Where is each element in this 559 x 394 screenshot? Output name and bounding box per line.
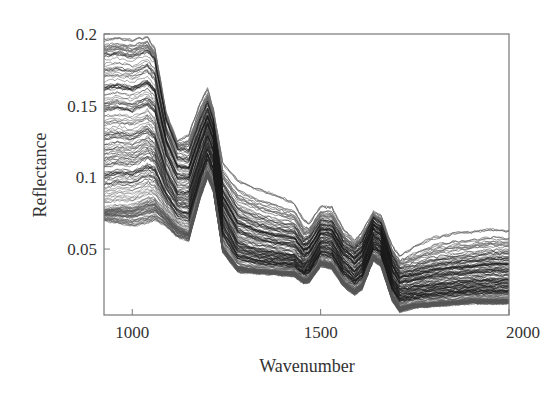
- x-axis-label: Wavenumber: [259, 356, 355, 376]
- y-tick-label: 0.1: [76, 168, 97, 187]
- y-tick-label: 0.2: [76, 25, 97, 44]
- y-tick-label: 0.05: [67, 240, 97, 259]
- x-tick-label: 1000: [115, 323, 149, 342]
- x-tick-label: 2000: [506, 323, 540, 342]
- y-tick-label: 0.15: [67, 97, 97, 116]
- x-axis-ticks: 100015002000: [115, 309, 540, 342]
- y-axis-label: Reflectance: [30, 133, 50, 218]
- spectra-chart: 100015002000 0.050.10.150.2 Wavenumber R…: [0, 0, 559, 394]
- x-tick-label: 1500: [304, 323, 338, 342]
- spectrum-line: [104, 42, 509, 262]
- spectra-lines: [104, 37, 509, 313]
